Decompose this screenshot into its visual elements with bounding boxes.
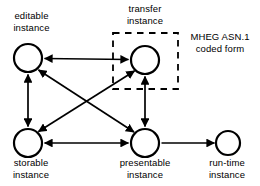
node-editable-instance[interactable] <box>14 44 42 72</box>
label-runtime-instance: run-time instance <box>194 157 260 180</box>
label-storable-instance: storable instance <box>0 157 62 180</box>
label-editable-instance: editable instance <box>0 10 63 33</box>
label-transfer-instance: transfer instance <box>112 3 178 26</box>
label-editable-line2: instance <box>0 22 63 34</box>
diagram-canvas: editable instance transfer instance stor… <box>0 0 260 186</box>
node-presentable-instance[interactable] <box>131 129 159 157</box>
label-presentable-instance: presentable instance <box>106 157 184 180</box>
node-transfer-instance[interactable] <box>131 46 159 74</box>
label-presentable-line2: instance <box>106 169 184 181</box>
label-transfer-line1: transfer <box>112 3 178 15</box>
node-storable-instance[interactable] <box>14 129 42 157</box>
node-layer <box>14 44 240 157</box>
label-mheg-asn1-coded-form: MHEG ASN.1 coded form <box>180 31 260 54</box>
label-editable-line1: editable <box>0 10 63 22</box>
edge-editable-transfer <box>45 59 129 60</box>
edge-layer <box>28 59 215 144</box>
label-mheg-asn1-line1: MHEG ASN.1 <box>180 31 260 43</box>
label-storable-line1: storable <box>0 157 62 169</box>
label-runtime-line2: instance <box>194 169 260 181</box>
label-runtime-line1: run-time <box>194 157 260 169</box>
label-transfer-line2: instance <box>112 15 178 27</box>
label-presentable-line1: presentable <box>106 157 184 169</box>
node-runtime-instance[interactable] <box>216 131 240 155</box>
label-mheg-asn1-line2: coded form <box>180 43 260 55</box>
label-storable-line2: instance <box>0 169 62 181</box>
